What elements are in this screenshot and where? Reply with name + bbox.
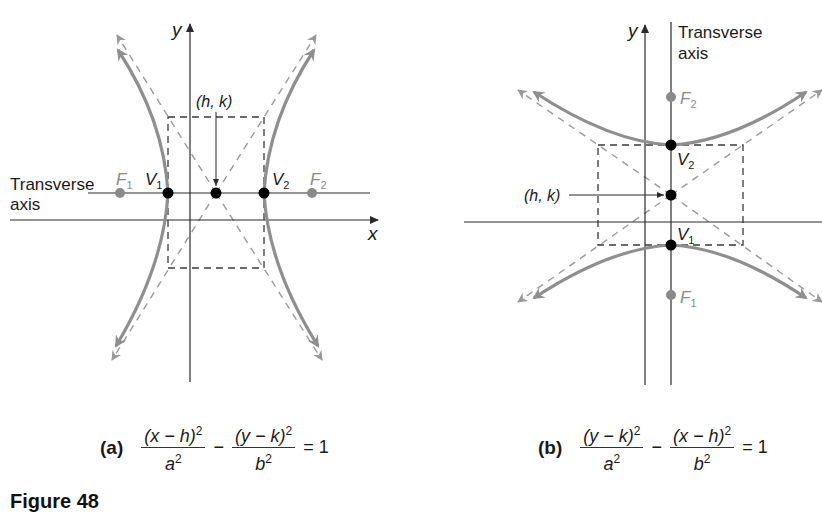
fraction-1-b: (y − k)2 a2 <box>580 420 643 475</box>
vertex-v1-b <box>666 240 677 251</box>
focus-f1-b <box>666 290 676 300</box>
transverse-axis-label-a-line1: Transverse <box>10 175 94 194</box>
numerator-1-a: (x − h) <box>144 426 196 446</box>
center-label-b: (h, k) <box>524 187 560 204</box>
denominator-1-b: a <box>604 454 614 474</box>
exponent: 2 <box>614 452 621 466</box>
y-axis-label-a: y <box>170 19 183 40</box>
focus-f1-a <box>115 188 125 198</box>
numerator-2-b: (x − h) <box>673 426 725 446</box>
exponent: 2 <box>704 452 711 466</box>
transverse-axis-label-b-line2: axis <box>678 44 708 63</box>
focus-f2-label-a: F2 <box>310 170 327 191</box>
x-axis-label-a: x <box>367 223 379 244</box>
panel-tag-a: (a) <box>100 437 123 459</box>
focus-f1-label-b: F1 <box>680 288 697 309</box>
exponent: 2 <box>285 424 292 438</box>
panel-tag-b: (b) <box>538 437 562 459</box>
vertex-v1-label-a: V1 <box>145 170 162 191</box>
equals-one-b: = 1 <box>742 437 768 458</box>
transverse-axis-label-b-line1: Transverse <box>678 23 762 42</box>
fraction-2-b: (x − h)2 b2 <box>670 420 734 475</box>
denominator-2-a: b <box>255 454 265 474</box>
exponent: 2 <box>265 452 272 466</box>
panel-b: y Transverse axis (h, k) F2 V2 V1 F1 <box>464 20 822 385</box>
numerator-1-b: (y − k) <box>583 426 634 446</box>
center-point-b <box>666 190 677 201</box>
denominator-1-a: a <box>165 454 175 474</box>
minus-operator-b: − <box>651 437 662 458</box>
vertex-v2-label-a: V2 <box>272 170 289 191</box>
center-point-a <box>211 188 222 199</box>
fraction-2-a: (y − k)2 b2 <box>232 420 295 475</box>
focus-f2-b <box>666 92 676 102</box>
y-axis-label-b: y <box>626 20 639 41</box>
focus-f1-label-a: F1 <box>116 170 133 191</box>
center-label-a: (h, k) <box>196 93 232 110</box>
vertex-v1-label-b: V1 <box>677 225 694 246</box>
vertex-v2-b <box>666 140 677 151</box>
exponent: 2 <box>196 424 203 438</box>
vertex-v2-a <box>259 188 270 199</box>
exponent: 2 <box>725 424 732 438</box>
figure-caption: Figure 48 <box>10 490 99 513</box>
exponent: 2 <box>634 424 641 438</box>
panel-a: y x Transverse axis (h, k) F1 V1 V2 F2 <box>10 19 379 382</box>
equation-b: (b) (y − k)2 a2 − (x − h)2 b2 = 1 <box>538 420 772 475</box>
vertex-v2-label-b: V2 <box>677 150 694 171</box>
fraction-1-a: (x − h)2 a2 <box>141 420 205 475</box>
focus-f2-a <box>307 188 317 198</box>
focus-f2-label-b: F2 <box>680 89 697 110</box>
exponent: 2 <box>175 452 182 466</box>
numerator-2-a: (y − k) <box>235 426 286 446</box>
equals-one-a: = 1 <box>303 437 329 458</box>
equation-a: (a) (x − h)2 a2 − (y − k)2 b2 = 1 <box>100 420 333 475</box>
denominator-2-b: b <box>694 454 704 474</box>
transverse-axis-label-a-line2: axis <box>10 195 40 214</box>
vertex-v1-a <box>163 188 174 199</box>
minus-operator-a: − <box>213 437 224 458</box>
